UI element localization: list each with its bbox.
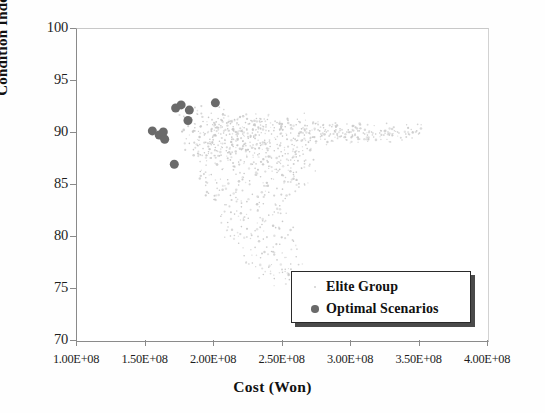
legend-label-optimal-scenarios: Optimal Scenarios (326, 301, 439, 317)
y-tick-label: 90 (30, 123, 68, 140)
optimal-scenarios-points (148, 98, 220, 168)
y-tick-mark (70, 236, 76, 237)
y-tick-mark (70, 80, 76, 81)
scatter-chart-figure: Condition Index 707580859095100 1.00E+08… (0, 0, 545, 413)
y-tick-label: 85 (30, 175, 68, 192)
x-tick-mark (145, 340, 146, 346)
x-tick-mark (419, 340, 420, 346)
x-tick-label: 4.00E+08 (442, 352, 532, 367)
y-tick-label: 95 (30, 71, 68, 88)
x-tick-mark (76, 340, 77, 346)
x-tick-mark (487, 340, 488, 346)
legend-entry-elite-group: Elite Group (292, 276, 470, 298)
tiny-dot-marker-icon (304, 286, 326, 288)
y-tick-mark (70, 132, 76, 133)
y-axis-title: Condition Index (0, 0, 11, 122)
x-axis-title: Cost (Won) (0, 378, 545, 396)
y-tick-label: 80 (30, 227, 68, 244)
legend-entry-optimal-scenarios: Optimal Scenarios (292, 298, 470, 320)
chart-legend: Elite Group Optimal Scenarios (291, 271, 471, 323)
y-tick-label: 70 (30, 331, 68, 348)
y-tick-label: 75 (30, 279, 68, 296)
y-tick-mark (70, 288, 76, 289)
elite-group-points (178, 105, 422, 286)
x-tick-mark (282, 340, 283, 346)
y-tick-mark (70, 28, 76, 29)
large-dot-marker-icon (304, 305, 326, 313)
legend-label-elite-group: Elite Group (326, 279, 398, 295)
x-tick-mark (350, 340, 351, 346)
y-tick-mark (70, 184, 76, 185)
y-tick-label: 100 (30, 19, 68, 36)
x-tick-mark (213, 340, 214, 346)
